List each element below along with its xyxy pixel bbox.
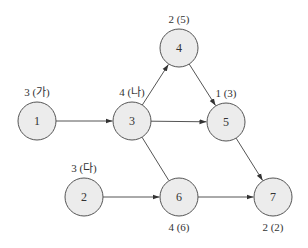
- node-label: 3 (다): [71, 162, 97, 175]
- node-number: 4: [176, 41, 182, 55]
- node-label: 1 (3): [215, 87, 236, 100]
- node-7: 72 (2): [254, 178, 292, 234]
- node-label: 4 (6): [168, 221, 189, 234]
- node-4: 42 (5): [160, 13, 198, 67]
- node-label: 4 (나): [119, 86, 145, 99]
- node-label: 3 (가): [24, 86, 50, 99]
- edge-3-5: [151, 121, 207, 122]
- edge-4-5: [189, 64, 215, 106]
- node-number: 1: [34, 114, 40, 128]
- node-5: 51 (3): [207, 87, 245, 141]
- node-1: 13 (가): [18, 86, 56, 140]
- edge-3-6: [142, 137, 169, 180]
- edge-3-4: [142, 64, 168, 105]
- node-label: 2 (5): [168, 13, 189, 26]
- node-2: 23 (다): [65, 162, 103, 216]
- nodes-layer: 13 (가)23 (다)34 (나)42 (5)51 (3)64 (6)72 (…: [18, 13, 292, 234]
- network-diagram: 13 (가)23 (다)34 (나)42 (5)51 (3)64 (6)72 (…: [0, 0, 308, 248]
- node-number: 2: [81, 190, 87, 204]
- node-6: 64 (6): [160, 178, 198, 234]
- node-number: 7: [270, 190, 276, 204]
- node-3: 34 (나): [113, 86, 151, 140]
- node-number: 3: [129, 114, 135, 128]
- edge-5-7: [236, 138, 263, 180]
- node-number: 5: [223, 115, 229, 129]
- node-number: 6: [176, 190, 182, 204]
- node-label: 2 (2): [262, 221, 283, 234]
